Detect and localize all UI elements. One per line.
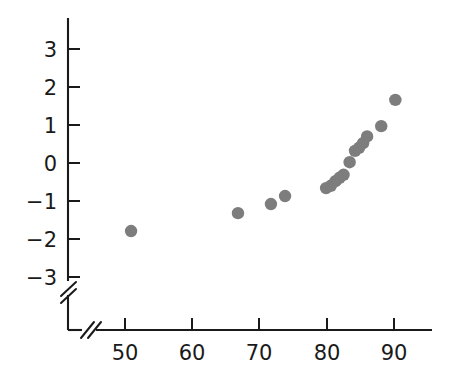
data-point-series bbox=[125, 94, 402, 238]
y-tick-label-neg3: −3 bbox=[26, 266, 57, 290]
data-point bbox=[389, 94, 401, 106]
scatter-plot-figure: 3 2 1 0 −1 −2 −3 bbox=[0, 0, 452, 370]
y-axis-tick-labels: 3 2 1 0 −1 −2 −3 bbox=[26, 38, 57, 290]
y-tick-label-1: 1 bbox=[44, 114, 57, 138]
y-tick-label-3: 3 bbox=[44, 38, 57, 62]
data-point bbox=[279, 190, 291, 202]
y-tick-label-0: 0 bbox=[44, 152, 57, 176]
x-tick-label-70: 70 bbox=[246, 341, 273, 365]
y-axis-group: 3 2 1 0 −1 −2 −3 bbox=[26, 18, 80, 330]
y-tick-label-neg2: −2 bbox=[26, 228, 57, 252]
data-point bbox=[337, 169, 349, 181]
x-axis-ticks bbox=[125, 318, 394, 330]
x-tick-label-80: 80 bbox=[314, 341, 341, 365]
data-point bbox=[375, 120, 387, 132]
y-axis-ticks bbox=[68, 49, 80, 277]
x-axis-group: 50 60 70 80 90 bbox=[68, 318, 432, 365]
data-point bbox=[343, 156, 355, 168]
data-point bbox=[361, 130, 373, 142]
x-tick-label-90: 90 bbox=[381, 341, 408, 365]
data-point bbox=[265, 198, 277, 210]
plot-canvas: 3 2 1 0 −1 −2 −3 bbox=[0, 0, 452, 370]
x-tick-label-50: 50 bbox=[112, 341, 139, 365]
x-tick-label-60: 60 bbox=[179, 341, 206, 365]
data-point bbox=[125, 225, 137, 237]
y-tick-label-neg1: −1 bbox=[26, 190, 57, 214]
data-point bbox=[232, 207, 244, 219]
y-tick-label-2: 2 bbox=[44, 76, 57, 100]
x-axis-tick-labels: 50 60 70 80 90 bbox=[112, 341, 408, 365]
